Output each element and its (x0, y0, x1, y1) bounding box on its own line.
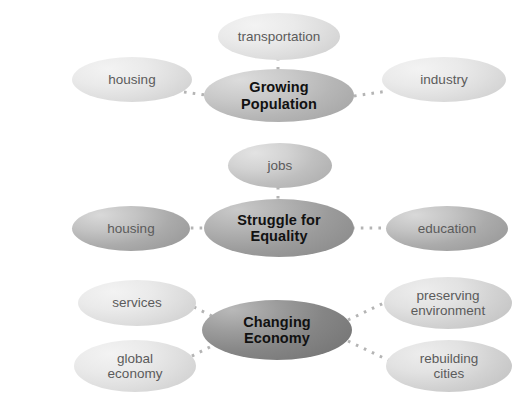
connector-changing-economy-preserving-environment (348, 302, 386, 320)
node-industry[interactable]: industry (382, 57, 506, 102)
node-struggle-for-equality-label: Struggle for Equality (204, 212, 354, 244)
node-housing-equality-label: housing (72, 221, 190, 236)
node-growing-population-label: Growing Population (204, 79, 354, 111)
connector-changing-economy-rebuilding-cities (348, 341, 390, 361)
node-services[interactable]: services (78, 280, 196, 326)
node-services-label: services (78, 295, 196, 310)
node-changing-economy[interactable]: Changing Economy (202, 300, 352, 360)
node-industry-label: industry (382, 72, 506, 87)
node-rebuilding-cities-label: rebuilding cities (386, 351, 512, 381)
node-transportation-label: transportation (218, 29, 340, 44)
node-transportation[interactable]: transportation (218, 13, 340, 60)
node-jobs-label: jobs (228, 158, 332, 173)
node-housing-population[interactable]: housing (72, 57, 192, 102)
node-global-economy[interactable]: global economy (74, 340, 196, 392)
connector-growing-population-industry (354, 91, 388, 96)
node-education[interactable]: education (386, 206, 508, 251)
node-growing-population[interactable]: Growing Population (204, 69, 354, 122)
concept-map-diagram: transportation housing industry Growing … (0, 0, 518, 417)
node-jobs[interactable]: jobs (228, 143, 332, 188)
node-housing-equality[interactable]: housing (72, 206, 190, 251)
node-housing-population-label: housing (72, 72, 192, 87)
node-global-economy-label: global economy (74, 351, 196, 381)
node-struggle-for-equality[interactable]: Struggle for Equality (204, 199, 354, 257)
node-changing-economy-label: Changing Economy (202, 314, 352, 346)
node-preserving-environment-label: preserving environment (384, 288, 512, 318)
node-rebuilding-cities[interactable]: rebuilding cities (386, 340, 512, 392)
node-preserving-environment[interactable]: preserving environment (384, 277, 512, 329)
node-education-label: education (386, 221, 508, 236)
